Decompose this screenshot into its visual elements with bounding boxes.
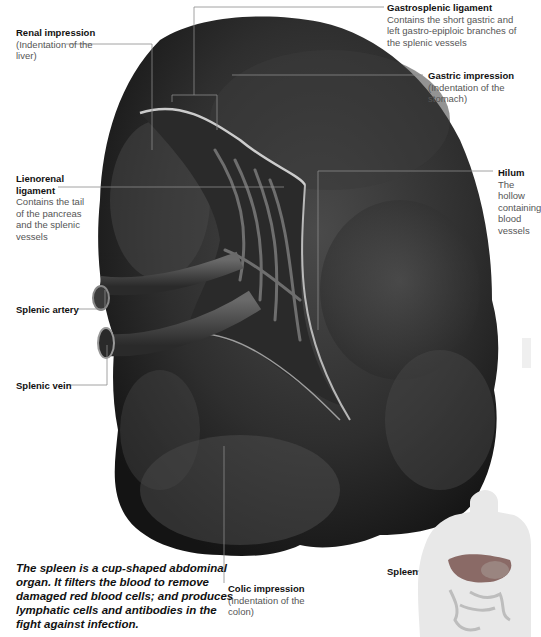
label-renal-impression: Renal impression (Indentation of the liv… xyxy=(16,27,96,62)
label-splenic-vein: Splenic vein xyxy=(16,380,96,392)
figure-caption: The spleen is a cup-shaped abdominal org… xyxy=(16,561,236,631)
label-splenic-artery: Splenic artery xyxy=(16,304,96,316)
label-hilum: Hilum The hollow containing blood vessel… xyxy=(498,167,533,236)
label-lienorenal-ligament: Lienorenal ligament Contains the tail of… xyxy=(16,173,86,242)
label-gastrosplenic-ligament: Gastrosplenic ligament Contains the shor… xyxy=(387,2,527,48)
label-colic-impression: Colic impression (Indentation of the col… xyxy=(228,583,308,618)
label-spleen-inset: Spleen xyxy=(387,566,427,578)
label-gastric-impression: Gastric impression (Indentation of the s… xyxy=(428,70,528,105)
